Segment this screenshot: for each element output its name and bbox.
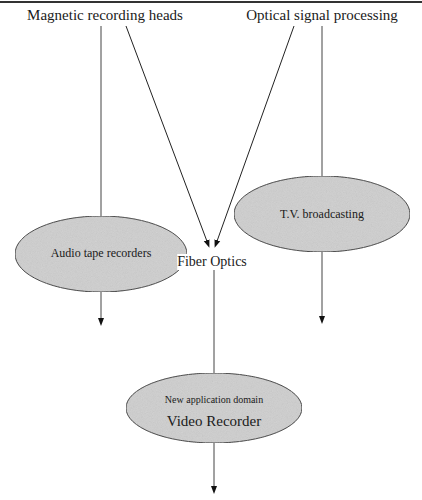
- node-tv-label: T.V. broadcasting: [280, 207, 364, 222]
- source-optical-label: Optical signal processing: [246, 7, 398, 24]
- node-video-sublabel: New application domain: [165, 394, 263, 405]
- node-fiber-label: Fiber Optics: [177, 254, 247, 270]
- node-audio-label: Audio tape recorders: [51, 246, 152, 261]
- source-magnetic-label: Magnetic recording heads: [27, 7, 183, 24]
- edge-magnetic-fiber: [126, 26, 208, 244]
- node-video-ellipse: [126, 373, 302, 443]
- node-video-label: Video Recorder: [167, 413, 261, 430]
